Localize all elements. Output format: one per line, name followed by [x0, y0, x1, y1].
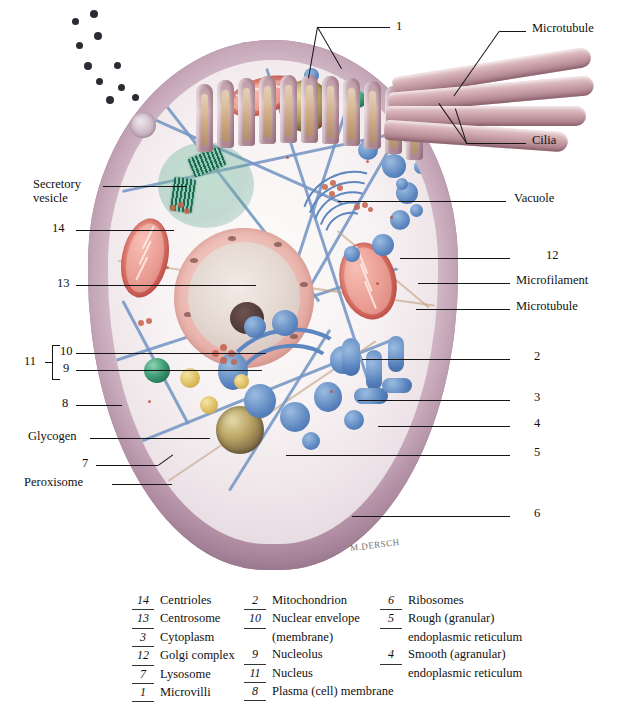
vesicle — [396, 178, 408, 190]
secretory-granule — [76, 42, 83, 49]
leader-line — [352, 516, 510, 517]
callout-glycogen: Glycogen — [28, 430, 77, 444]
callout-3: 3 — [534, 391, 540, 405]
smooth-endoplasmic-reticulum — [334, 334, 424, 444]
callout-vesicle: vesicle — [33, 192, 68, 206]
legend-number: 8 — [244, 683, 266, 701]
secretory-granule — [72, 18, 79, 25]
legend-label: Lysosome — [160, 666, 211, 683]
leader-line — [112, 484, 172, 485]
peroxisome — [200, 396, 218, 414]
legend-label: Centrioles — [160, 592, 211, 609]
bracket-stem — [45, 362, 52, 363]
legend-item: 8 Plasma (cell) membrane — [244, 683, 404, 701]
leader-line — [418, 283, 510, 284]
legend-number: 2 — [244, 592, 266, 610]
bracket-bottom — [52, 379, 60, 380]
legend-number: 5 — [380, 610, 402, 628]
legend-column-1: 14 Centrioles 13 Centrosome 3 Cytoplasm … — [132, 592, 257, 702]
legend-number: 12 — [132, 647, 154, 665]
secretory-granule — [114, 62, 121, 69]
secretory-granule — [96, 78, 103, 85]
callout-microtubule: Microtubule — [516, 300, 578, 314]
callout-6: 6 — [534, 507, 540, 521]
bracket-top — [52, 345, 60, 346]
glycogen-granules — [138, 318, 160, 334]
legend-item: 3 Cytoplasm — [132, 629, 257, 647]
leader-line — [76, 230, 174, 231]
leader-line — [76, 285, 256, 286]
legend-item: 6 Ribosomes — [380, 592, 555, 610]
leader-line — [378, 426, 510, 427]
callout-9: 9 — [63, 362, 69, 376]
callout-1: 1 — [396, 20, 402, 34]
legend-number: 11 — [244, 665, 266, 683]
legend-label-continuation: endoplasmic reticulum — [380, 665, 555, 682]
legend-label: Nuclear envelope — [272, 610, 360, 627]
callout-microtubule-cilium: Microtubule — [532, 22, 594, 36]
peroxisome — [234, 374, 249, 389]
callout-cilia: Cilia — [532, 134, 556, 148]
legend-item: 13 Centrosome — [132, 610, 257, 628]
legend-label: Rough (granular) — [408, 610, 494, 627]
callout-10: 10 — [60, 345, 73, 359]
legend-label: Mitochondrion — [272, 592, 347, 609]
legend-label: Plasma (cell) membrane — [272, 683, 393, 700]
leader-line — [286, 455, 510, 456]
legend-item: 14 Centrioles — [132, 592, 257, 610]
cell-diagram-figure: M.DERSCH 1 Microtubule Cilia Vacuol — [0, 0, 639, 716]
lysosome — [150, 82, 172, 103]
legend-number: 14 — [132, 592, 154, 610]
legend-label: Centrosome — [160, 610, 220, 627]
callout-8: 8 — [62, 397, 68, 411]
legend-label: Nucleus — [272, 665, 313, 682]
callout-microfilament: Microfilament — [516, 274, 588, 288]
secretory-granule — [94, 32, 102, 40]
leader-line — [103, 186, 187, 187]
leader-line — [76, 370, 262, 371]
leader-line — [76, 405, 122, 406]
legend-label: Golgi complex — [160, 647, 235, 664]
callout-5: 5 — [534, 446, 540, 460]
legend-number: 6 — [380, 592, 402, 610]
secretory-granule — [84, 62, 92, 70]
legend-item: 4 Smooth (agranular) — [380, 646, 555, 664]
callout-secretory: Secretory — [33, 178, 81, 192]
callout-peroxisome: Peroxisome — [24, 476, 83, 490]
callout-14: 14 — [52, 222, 65, 236]
legend-number: 10 — [244, 610, 266, 628]
leader-line — [500, 31, 526, 32]
secretory-granule — [132, 94, 139, 101]
legend-number: 4 — [380, 646, 402, 664]
legend-number: 7 — [132, 666, 154, 684]
legend-item: 1 Microvilli — [132, 684, 257, 702]
secretory-vesicle — [130, 112, 156, 138]
legend-item: 12 Golgi complex — [132, 647, 257, 665]
callout-vacuole: Vacuole — [514, 192, 554, 206]
glycogen-granules — [354, 202, 376, 218]
glycogen-granules — [170, 202, 194, 220]
secretory-granule — [118, 84, 125, 91]
legend-number: 1 — [132, 684, 154, 702]
callout-13: 13 — [57, 277, 70, 291]
callout-4: 4 — [534, 417, 540, 431]
glycogen-granules — [212, 344, 242, 370]
legend-label-continuation: endoplasmic reticulum — [380, 629, 555, 646]
mitochondrion — [114, 214, 176, 302]
leader-line — [96, 465, 158, 466]
glycogen-granules — [322, 180, 348, 200]
secretory-granule — [106, 96, 114, 104]
leader-line — [338, 201, 506, 202]
callout-2: 2 — [534, 350, 540, 364]
legend-number: 9 — [244, 646, 266, 664]
leader-line — [318, 27, 390, 28]
legend-label: Smooth (agranular) — [408, 646, 506, 663]
leader-line — [466, 143, 526, 144]
legend-label: Cytoplasm — [160, 629, 214, 646]
leader-line — [358, 400, 510, 401]
leader-line — [416, 309, 510, 310]
legend-number: 13 — [132, 610, 154, 628]
legend-item: 7 Lysosome — [132, 666, 257, 684]
legend-label: Ribosomes — [408, 592, 464, 609]
callout-11: 11 — [24, 355, 36, 369]
